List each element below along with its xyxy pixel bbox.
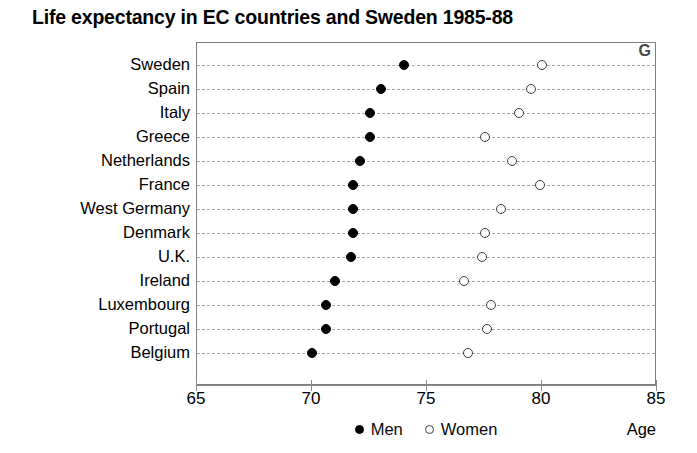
grid-line — [197, 209, 655, 210]
x-axis-title: Age — [596, 421, 656, 438]
plot-frame: G — [196, 42, 656, 385]
page-title: Life expectancy in EC countries and Swed… — [32, 6, 513, 29]
data-point-women-denmark — [480, 228, 490, 238]
women-marker-icon — [425, 425, 434, 434]
men-marker-icon — [355, 425, 364, 434]
data-point-men-portugal — [321, 324, 331, 334]
x-tick-label: 80 — [532, 390, 551, 407]
grid-line — [197, 65, 655, 66]
grid-line — [197, 257, 655, 258]
x-tick-label: 75 — [417, 390, 436, 407]
data-point-women-greece — [480, 132, 490, 142]
category-label-denmark: Denmark — [0, 224, 190, 241]
x-tick-label: 65 — [187, 390, 206, 407]
grid-line — [197, 89, 655, 90]
data-point-women-luxembourg — [486, 300, 496, 310]
grid-line — [197, 353, 655, 354]
grid-line — [197, 185, 655, 186]
category-label-greece: Greece — [0, 128, 190, 145]
category-axis-labels: SwedenSpainItalyGreeceNetherlandsFranceW… — [0, 42, 190, 385]
legend-label: Women — [441, 421, 498, 438]
grid-line — [197, 305, 655, 306]
data-point-men-west-germany — [348, 204, 358, 214]
chart-page: Life expectancy in EC countries and Swed… — [0, 0, 697, 453]
grid-line — [197, 281, 655, 282]
legend-label: Men — [371, 421, 403, 438]
category-label-portugal: Portugal — [0, 320, 190, 337]
category-label-netherlands: Netherlands — [0, 152, 190, 169]
x-axis — [196, 385, 656, 386]
legend-item-men[interactable]: Men — [355, 421, 403, 438]
data-point-men-ireland — [330, 276, 340, 286]
category-label-italy: Italy — [0, 104, 190, 121]
data-point-women-u-k — [477, 252, 487, 262]
category-label-west-germany: West Germany — [0, 200, 190, 217]
data-point-women-netherlands — [507, 156, 517, 166]
grid-line — [197, 233, 655, 234]
data-point-men-france — [348, 180, 358, 190]
category-label-luxembourg: Luxembourg — [0, 296, 190, 313]
legend-item-women[interactable]: Women — [425, 421, 498, 438]
data-point-men-spain — [376, 84, 386, 94]
grid-line — [197, 113, 655, 114]
data-point-men-greece — [365, 132, 375, 142]
grid-line — [197, 329, 655, 330]
data-point-women-belgium — [463, 348, 473, 358]
data-point-men-u-k — [346, 252, 356, 262]
data-point-women-west-germany — [496, 204, 506, 214]
category-label-belgium: Belgium — [0, 344, 190, 361]
data-point-women-ireland — [459, 276, 469, 286]
data-point-men-netherlands — [355, 156, 365, 166]
plot-area — [197, 43, 655, 384]
x-tick-label: 85 — [647, 390, 666, 407]
x-tick-label: 70 — [302, 390, 321, 407]
data-point-women-spain — [526, 84, 536, 94]
grid-line — [197, 161, 655, 162]
data-point-men-denmark — [348, 228, 358, 238]
data-point-men-belgium — [307, 348, 317, 358]
category-label-spain: Spain — [0, 80, 190, 97]
data-point-men-sweden — [399, 60, 409, 70]
grid-line — [197, 137, 655, 138]
data-point-women-portugal — [482, 324, 492, 334]
category-label-u-k: U.K. — [0, 248, 190, 265]
data-point-women-sweden — [537, 60, 547, 70]
data-point-men-luxembourg — [321, 300, 331, 310]
data-point-women-italy — [514, 108, 524, 118]
data-point-men-italy — [365, 108, 375, 118]
category-label-ireland: Ireland — [0, 272, 190, 289]
category-label-sweden: Sweden — [0, 56, 190, 73]
legend: MenWomen — [196, 421, 656, 438]
data-point-women-france — [535, 180, 545, 190]
category-label-france: France — [0, 176, 190, 193]
